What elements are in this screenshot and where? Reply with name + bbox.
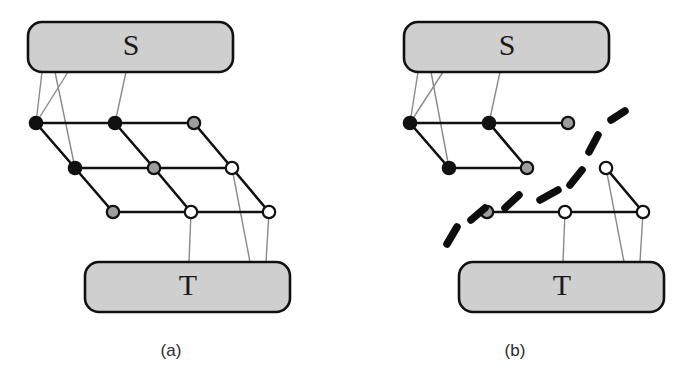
lattice-node-gray[interactable] xyxy=(562,117,574,129)
lattice-node-white[interactable] xyxy=(226,162,238,174)
panel-b-connector-3 xyxy=(489,72,500,123)
lattice-node-black[interactable] xyxy=(443,162,455,174)
figure-root: ST(a)ST(b) xyxy=(0,0,686,376)
panel-b-edge-6 xyxy=(489,123,527,168)
lattice-node-gray[interactable] xyxy=(148,162,160,174)
panel-b-caption: (b) xyxy=(505,341,526,360)
panel-a-edge-11 xyxy=(232,168,269,212)
lattice-node-white[interactable] xyxy=(185,206,197,218)
lattice-node-gray[interactable] xyxy=(521,162,533,174)
lattice-node-black[interactable] xyxy=(404,117,416,129)
lattice-node-gray[interactable] xyxy=(188,117,200,129)
panel-b-cut-dash-3 xyxy=(540,190,558,200)
panel-a-connector-1 xyxy=(55,72,75,168)
panel-b-cut-dash-1 xyxy=(589,135,598,152)
panel-b-edge-5 xyxy=(410,123,449,168)
panel-a-edge-8 xyxy=(115,123,154,168)
panel-b-cut-dash-0 xyxy=(611,111,625,120)
panel-b-source-label: S xyxy=(499,28,516,61)
panel-a-caption: (a) xyxy=(161,341,182,360)
lattice-node-white[interactable] xyxy=(559,206,571,218)
panel-a-edge-9 xyxy=(154,168,191,212)
panel-a-connector-4 xyxy=(189,212,191,262)
panel-b-connector-5 xyxy=(606,168,624,262)
panel-b-cut-dash-5 xyxy=(471,208,485,220)
panel-b: ST(b) xyxy=(404,22,664,360)
panel-b-edge-7 xyxy=(606,168,643,212)
panel-b-cut-dash-2 xyxy=(570,170,582,185)
panel-a-edge-10 xyxy=(194,123,232,168)
lattice-node-white[interactable] xyxy=(637,206,649,218)
panel-a-edge-7 xyxy=(75,168,113,212)
panel-a-connector-6 xyxy=(266,212,269,262)
panel-b-connector-0 xyxy=(410,72,418,123)
panel-b-cut-dash-6 xyxy=(447,227,457,244)
panel-b-target-label: T xyxy=(553,268,571,301)
lattice-node-black[interactable] xyxy=(30,117,42,129)
lattice-node-white[interactable] xyxy=(600,162,612,174)
lattice-node-white[interactable] xyxy=(263,206,275,218)
panel-a-edge-6 xyxy=(36,123,75,168)
panel-a-connector-3 xyxy=(115,72,126,123)
lattice-node-gray[interactable] xyxy=(107,206,119,218)
panel-b-connector-4 xyxy=(563,212,565,262)
panel-a: ST(a) xyxy=(28,22,290,360)
figure-canvas: ST(a)ST(b) xyxy=(0,0,686,376)
panel-b-connector-6 xyxy=(640,212,643,262)
panel-b-cut-dash-4 xyxy=(505,195,519,208)
panel-b-connector-2 xyxy=(410,72,443,123)
panel-a-connector-5 xyxy=(232,168,250,262)
panel-a-target-label: T xyxy=(179,268,197,301)
lattice-node-black[interactable] xyxy=(109,117,121,129)
lattice-node-black[interactable] xyxy=(483,117,495,129)
lattice-node-black[interactable] xyxy=(69,162,81,174)
panel-a-source-label: S xyxy=(123,28,140,61)
